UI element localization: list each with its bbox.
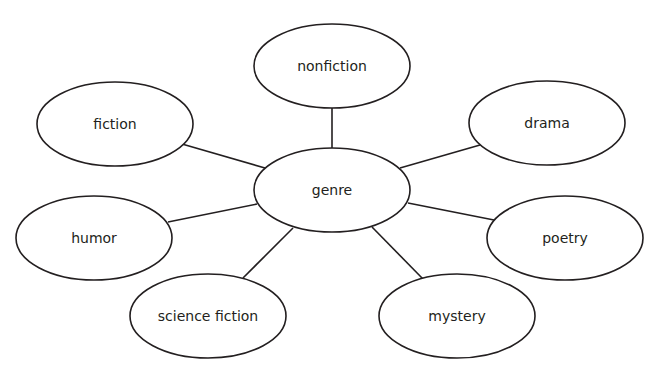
node-humor: humor xyxy=(16,196,172,280)
node-genre-center: genre xyxy=(254,148,410,232)
connector-genre-mystery xyxy=(372,227,423,279)
connector-genre-drama xyxy=(400,145,480,168)
node-drama: drama xyxy=(469,81,625,165)
node-nonfiction: nonfiction xyxy=(254,24,410,108)
node-mystery: mystery xyxy=(379,274,535,358)
connector-genre-humor xyxy=(168,204,257,222)
connector-genre-fiction xyxy=(182,144,265,168)
node-humor-label: humor xyxy=(71,230,117,246)
node-genre-center-label: genre xyxy=(312,182,352,198)
node-poetry: poetry xyxy=(487,196,643,280)
connector-genre-poetry xyxy=(408,203,494,220)
concept-nodes: genrenonfictionfictiondramahumorpoetrysc… xyxy=(16,24,643,358)
connector-genre-science-fiction xyxy=(243,228,293,278)
node-poetry-label: poetry xyxy=(542,230,588,246)
node-nonfiction-label: nonfiction xyxy=(297,58,367,74)
node-science-fiction-label: science fiction xyxy=(158,308,258,324)
node-fiction-label: fiction xyxy=(93,116,136,132)
node-drama-label: drama xyxy=(524,115,569,131)
node-science-fiction: science fiction xyxy=(130,274,286,358)
node-fiction: fiction xyxy=(37,82,193,166)
genre-concept-web: genrenonfictionfictiondramahumorpoetrysc… xyxy=(0,0,662,376)
node-mystery-label: mystery xyxy=(428,308,485,324)
